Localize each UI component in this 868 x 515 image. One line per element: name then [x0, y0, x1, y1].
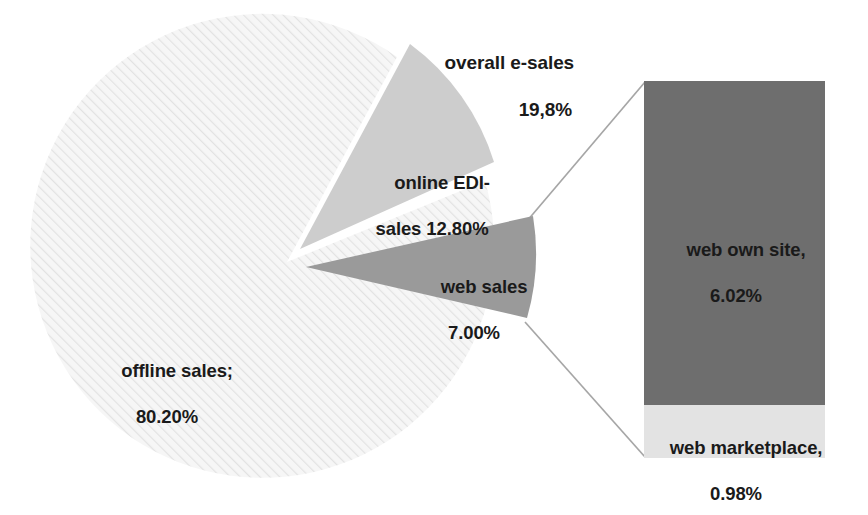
- bar-label-web-own-site-name: web own site,: [687, 239, 806, 260]
- pie-label-web-sales-value: 7.00%: [409, 321, 539, 344]
- pie-label-online-edi-sales-line2: sales 12.80%: [344, 217, 520, 240]
- annotation-overall-e-sales-line1: overall e-sales: [445, 52, 574, 73]
- pie-label-offline-sales-value: 80.20%: [72, 405, 262, 428]
- pie-of-bar-chart: overall e-sales 19,8% online EDI- sales …: [0, 0, 868, 515]
- pie-label-offline-sales: offline sales; 80.20%: [72, 336, 262, 475]
- pie-label-web-sales: web sales 7.00%: [409, 252, 539, 391]
- pie-label-web-sales-name: web sales: [441, 276, 528, 297]
- bar-label-web-marketplace-name: web marketplace,: [670, 437, 823, 458]
- annotation-overall-e-sales-value: 19,8%: [404, 98, 594, 122]
- leader-line-bottom: [525, 322, 645, 457]
- pie-label-online-edi-sales-line1: online EDI-: [394, 172, 490, 193]
- bar-label-web-own-site-value: 6.02%: [646, 284, 826, 307]
- bar-label-web-marketplace-value: 0.98%: [640, 482, 832, 505]
- pie-label-offline-sales-name: offline sales;: [121, 360, 233, 381]
- bar-label-web-own-site: web own site, 6.02%: [646, 215, 826, 354]
- bar-label-web-marketplace: web marketplace, 0.98%: [640, 413, 832, 515]
